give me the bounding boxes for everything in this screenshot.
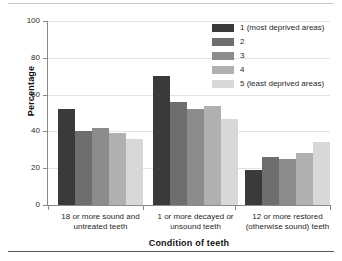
legend-swatch [212,66,234,74]
legend-label: 5 (least deprived areas) [240,78,324,90]
legend-item[interactable]: 1 (most deprived areas) [212,22,338,35]
legend-label: 1 (most deprived areas) [240,22,324,34]
x-tick-mark [48,205,49,210]
bar[interactable] [245,170,262,205]
legend-swatch [212,24,234,32]
category-label-line: 18 or more sound and [49,212,153,222]
y-tick-label: 60 [14,91,40,99]
bar[interactable] [58,109,75,205]
bar-group [58,21,143,205]
category-label-line: untreated teeth [49,222,153,232]
bottom-divider-rule [8,251,334,252]
category-label-line: 12 or more restored [236,212,340,222]
bar[interactable] [296,153,313,205]
bar[interactable] [204,106,221,205]
category-label: 18 or more sound anduntreated teeth [49,212,153,232]
category-label-line: (otherwise sound) teeth [236,222,340,232]
x-axis-line [47,205,330,206]
category-label-line: unsound teeth [144,222,248,232]
legend-swatch [212,38,234,46]
bar[interactable] [279,159,296,205]
top-divider-rule [8,3,334,4]
y-tick-label: 40 [14,127,40,135]
bar[interactable] [126,139,143,205]
bar[interactable] [92,128,109,205]
legend-swatch [212,52,234,60]
x-tick-mark [330,205,331,210]
bar[interactable] [109,133,126,205]
category-label: 12 or more restored(otherwise sound) tee… [236,212,340,232]
legend-label: 2 [240,36,244,48]
legend-label: 4 [240,64,244,76]
bar[interactable] [75,131,92,205]
bar[interactable] [313,142,330,205]
legend-item[interactable]: 4 [212,64,338,77]
x-tick-mark [143,205,144,210]
x-axis-title: Condition of teeth [48,238,330,248]
bar-chart-figure: Percentage Condition of teeth 0204060801… [0,0,342,261]
legend-item[interactable]: 5 (least deprived areas) [212,78,338,91]
y-tick-label: 20 [14,164,40,172]
bar[interactable] [262,157,279,205]
category-label-line: 1 or more decayed or [144,212,248,222]
y-tick-label: 100 [14,17,40,25]
y-tick-label: 80 [14,54,40,62]
bar[interactable] [153,76,170,205]
x-tick-mark [235,205,236,210]
legend-label: 3 [240,50,244,62]
bar[interactable] [221,119,238,205]
bar[interactable] [187,109,204,205]
legend: 1 (most deprived areas)2345 (least depri… [212,22,338,92]
y-tick-label: 0 [14,201,40,209]
legend-item[interactable]: 3 [212,50,338,63]
category-label: 1 or more decayed orunsound teeth [144,212,248,232]
legend-swatch [212,80,234,88]
legend-item[interactable]: 2 [212,36,338,49]
bar[interactable] [170,102,187,205]
